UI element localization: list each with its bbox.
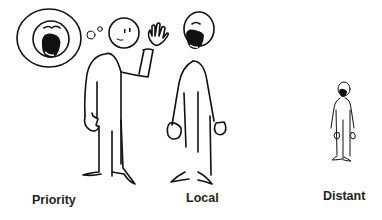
local-label: Local xyxy=(186,191,219,205)
illustration: Priority Local Distant xyxy=(0,0,382,220)
priority-label: Priority xyxy=(32,193,76,207)
local-figure xyxy=(167,12,225,184)
shouting-face-icon xyxy=(33,21,69,58)
distant-figure xyxy=(331,82,355,161)
distant-label: Distant xyxy=(323,189,365,203)
thought-bubble xyxy=(17,9,102,67)
priority-figure xyxy=(83,18,168,184)
